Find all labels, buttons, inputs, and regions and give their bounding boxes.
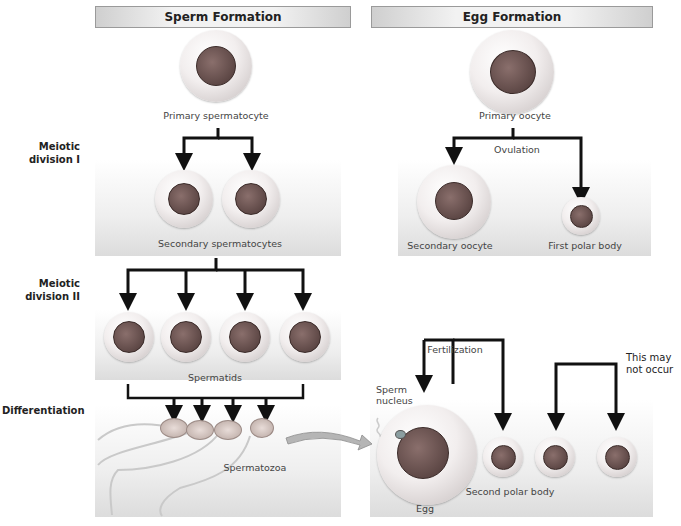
- secondary-oocyte-cell: [417, 165, 491, 239]
- sperm-nucleus: [395, 430, 406, 439]
- spermatid-cell: [104, 312, 154, 362]
- label-line: Sperm: [376, 384, 413, 395]
- label-secondary-oocyte: Secondary oocyte: [400, 240, 500, 251]
- nucleus: [235, 183, 267, 215]
- label-second-polar-body: Second polar body: [462, 486, 558, 497]
- label-sperm-nucleus: Sperm nucleus: [376, 384, 413, 406]
- nucleus: [289, 321, 321, 353]
- sperm-head: [186, 420, 214, 440]
- primary-spermatocyte-cell: [180, 30, 252, 102]
- secondary-spermatocyte-cell: [222, 170, 280, 228]
- spermatid-cell: [161, 312, 211, 362]
- label-ovulation: Ovulation: [487, 144, 547, 155]
- sperm-head: [214, 420, 242, 440]
- polar-body-cell: [535, 437, 575, 477]
- secondary-spermatocyte-cell: [155, 170, 213, 228]
- nucleus: [490, 50, 536, 94]
- polar-body-cell: [597, 437, 637, 477]
- note-line: This may: [626, 352, 673, 364]
- connector-arrows: [0, 0, 681, 526]
- nucleus: [113, 321, 145, 353]
- label-line: nucleus: [376, 395, 413, 406]
- label-primary-spermatocyte: Primary spermatocyte: [150, 110, 282, 121]
- first-polar-body-cell: [562, 197, 600, 235]
- note-line: not occur: [626, 364, 673, 376]
- nucleus: [196, 46, 236, 86]
- nucleus: [168, 183, 200, 215]
- spermatid-cell: [220, 312, 270, 362]
- nucleus: [435, 182, 473, 220]
- spermatid-cell: [280, 312, 330, 362]
- sperm-head: [250, 418, 274, 438]
- nucleus: [491, 445, 516, 470]
- sperm-head: [160, 418, 188, 438]
- primary-oocyte-cell: [470, 30, 554, 114]
- label-first-polar-body: First polar body: [540, 240, 630, 251]
- label-spermatids: Spermatids: [180, 372, 250, 383]
- second-polar-body-cell: [483, 437, 523, 477]
- nucleus: [570, 205, 593, 228]
- label-may-not-occur: This may not occur: [626, 352, 673, 376]
- nucleus: [229, 321, 261, 353]
- nucleus: [605, 445, 630, 470]
- label-spermatozoa: Spermatozoa: [220, 462, 290, 473]
- nucleus: [543, 445, 568, 470]
- label-secondary-spermatocytes: Secondary spermatocytes: [140, 238, 300, 249]
- nucleus: [170, 321, 202, 353]
- transfer-arrow: [286, 432, 372, 450]
- label-egg: Egg: [410, 503, 440, 514]
- label-primary-oocyte: Primary oocyte: [470, 110, 560, 121]
- label-fertilization: Fertilization: [423, 344, 487, 355]
